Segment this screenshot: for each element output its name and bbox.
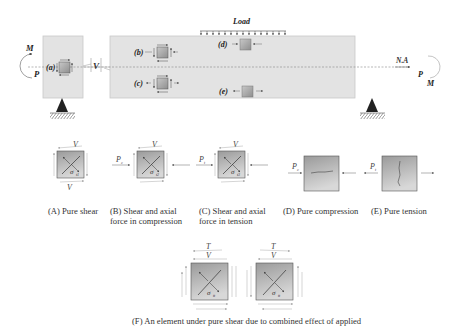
caption-b: (B) Shear and axial force in compression <box>110 206 182 226</box>
caption-d: (D) Pure compression <box>283 206 358 216</box>
combined-2-sigma: σ <box>272 289 276 297</box>
left-axial-label: P <box>34 69 40 79</box>
right-end-actions: N.A P M <box>395 56 440 88</box>
state-a-sigma: σ <box>70 168 74 176</box>
svg-text:t: t <box>375 167 377 172</box>
combined-element-2: T V σ tt <box>247 242 302 309</box>
svg-text:c: c <box>121 160 123 165</box>
beam-diagram-canvas: V Load M P N.A <box>0 0 462 329</box>
state-c-sigma: σ <box>231 168 235 176</box>
combined-2-v-label: V <box>271 251 277 260</box>
stress-state-c: P t V σ t3 <box>196 140 268 182</box>
right-support <box>360 98 385 119</box>
combined-element-1: T V σ tt <box>182 242 236 309</box>
distributed-load: Load <box>200 17 286 35</box>
svg-text:c: c <box>297 167 299 172</box>
neutral-axis-label: N.A <box>395 56 408 65</box>
element-e-label: (e) <box>219 87 228 96</box>
element-c-label: (c) <box>134 79 143 88</box>
right-moment-label: M <box>426 79 435 88</box>
stress-state-a: V σ t1 V <box>54 140 87 192</box>
state-c-top-v: V <box>233 140 239 149</box>
caption-c: (C) Shear and axial force in tension <box>199 206 266 226</box>
stress-state-d: P c <box>288 156 356 191</box>
element-d-label: (d) <box>218 40 228 49</box>
state-a-top-v: V <box>73 140 79 149</box>
state-b-top-v: V <box>152 140 158 149</box>
stress-state-e: P t <box>364 156 434 191</box>
load-label: Load <box>232 17 251 26</box>
combined-1-v-label: V <box>206 251 212 260</box>
right-axial-label: P <box>418 70 423 79</box>
left-moment-label: M <box>25 43 34 53</box>
left-end-actions: M P <box>20 43 40 79</box>
svg-text:t: t <box>204 160 206 165</box>
caption-a: (A) Pure shear <box>48 206 98 216</box>
caption-f: (F) An element under pure shear due to c… <box>132 316 361 326</box>
combined-2-t-label: T <box>271 242 276 251</box>
shear-label: V <box>93 61 100 71</box>
state-b-sigma: σ <box>150 168 154 176</box>
element-a-label: (a) <box>46 63 56 72</box>
combined-1-t-label: T <box>206 242 211 251</box>
svg-text:t3: t3 <box>237 172 240 177</box>
caption-e: (E) Pure tension <box>371 206 427 216</box>
element-b-label: (b) <box>134 48 144 57</box>
combined-1-sigma: σ <box>207 289 211 297</box>
svg-text:t2: t2 <box>156 172 159 177</box>
left-support <box>50 98 75 119</box>
stress-state-b: P c V σ t2 <box>112 140 190 182</box>
svg-text:t1: t1 <box>76 172 79 177</box>
state-a-bottom-v: V <box>67 183 73 192</box>
shear-cut-indicator: V <box>83 58 110 72</box>
